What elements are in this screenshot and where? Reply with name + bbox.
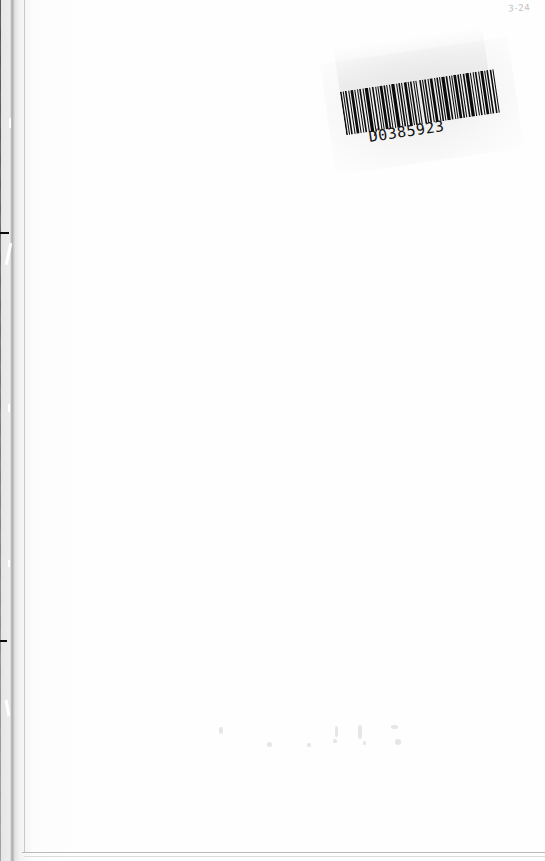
gutter-tear-icon	[9, 118, 11, 128]
gutter-tear-icon	[8, 560, 10, 567]
gutter-nick-icon	[0, 232, 9, 234]
scan-gutter-feather	[0, 0, 26, 861]
library-barcode-label: D0385923	[331, 46, 513, 168]
bleed-speck	[395, 739, 401, 745]
bleed-speck	[391, 725, 398, 729]
scan-gutter-fill	[0, 0, 26, 861]
bleed-speck	[358, 725, 362, 739]
bleed-speck	[307, 743, 311, 747]
scanned-page-root: D0385923 3-24	[0, 0, 545, 861]
gutter-tear-icon	[8, 404, 10, 412]
bleed-through-specks	[215, 725, 415, 765]
gutter-tear-icon	[5, 700, 11, 716]
bleed-speck	[267, 742, 272, 747]
bleed-speck	[333, 739, 337, 743]
gutter-tear-icon	[5, 243, 13, 265]
page-bottom-edge-line-secondary	[24, 856, 545, 857]
bleed-speck	[335, 726, 338, 737]
handwritten-corner-mark: 3-24	[508, 2, 531, 13]
scan-gutter-band	[0, 0, 26, 861]
gutter-nick-icon	[0, 640, 7, 642]
page-bottom-edge-line	[22, 852, 545, 853]
bleed-speck	[219, 727, 223, 734]
bleed-speck	[363, 741, 366, 745]
